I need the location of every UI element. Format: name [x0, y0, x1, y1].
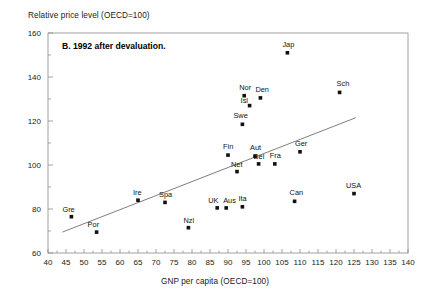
data-point-label: Den: [255, 85, 269, 94]
x-tick-label: 40: [44, 258, 53, 267]
x-tick-label: 140: [401, 258, 415, 267]
data-point-marker: [338, 91, 342, 95]
data-point-marker: [95, 230, 99, 234]
x-tick-label: 45: [62, 258, 71, 267]
data-point-label: Fin: [223, 142, 233, 151]
data-point-label: Ita: [238, 194, 247, 203]
y-axis-ticks: 6080100120140160: [28, 29, 53, 258]
x-tick-label: 100: [257, 258, 271, 267]
x-tick-label: 115: [312, 258, 325, 267]
x-axis-label: GNP per capita (OECD=100): [0, 277, 430, 286]
data-point-label: Fra: [270, 151, 282, 160]
x-tick-label: 80: [188, 258, 197, 267]
data-point-marker: [215, 206, 219, 210]
x-tick-label: 120: [329, 258, 343, 267]
data-point-label: Por: [88, 220, 100, 229]
data-point-label: USA: [346, 181, 361, 190]
data-point-marker: [273, 162, 277, 166]
x-tick-label: 65: [134, 258, 143, 267]
data-point-label: Ire: [133, 188, 142, 197]
x-tick-label: 95: [242, 258, 251, 267]
data-point-marker: [241, 205, 245, 209]
y-tick-label: 60: [32, 249, 41, 258]
data-point-label: Aus: [223, 196, 236, 205]
data-points-group: GrePorIreSpaNzlUKAusItaFinNetAutBelFraGe…: [62, 40, 361, 234]
data-point-marker: [298, 150, 302, 154]
data-point-marker: [241, 123, 245, 127]
data-point-label: Gre: [62, 205, 74, 214]
data-point-label: Can: [290, 188, 304, 197]
data-point-marker: [235, 170, 239, 174]
chart-container: Relative price level (OECD=100) 40455055…: [0, 0, 430, 294]
y-tick-label: 100: [28, 161, 42, 170]
x-tick-label: 130: [365, 258, 379, 267]
x-tick-label: 90: [224, 258, 233, 267]
data-point-marker: [224, 206, 228, 210]
data-point-label: Net: [231, 160, 243, 169]
x-axis-ticks: 4045505560657075808590951001051101151201…: [44, 249, 416, 267]
y-tick-label: 120: [28, 117, 42, 126]
data-point-marker: [187, 226, 191, 230]
panel-title: B. 1992 after devaluation.: [62, 41, 166, 51]
trend-line: [62, 118, 355, 232]
data-point-marker: [286, 51, 290, 55]
x-tick-label: 70: [152, 258, 161, 267]
data-point-marker: [226, 153, 230, 157]
data-point-label: Bel: [254, 152, 265, 161]
x-tick-label: 85: [206, 258, 215, 267]
x-tick-label: 105: [275, 258, 289, 267]
data-point-marker: [136, 198, 140, 202]
y-tick-label: 160: [28, 29, 42, 38]
data-point-marker: [163, 201, 167, 205]
x-tick-label: 60: [116, 258, 125, 267]
y-tick-label: 140: [28, 73, 42, 82]
x-tick-label: 55: [98, 258, 107, 267]
data-point-label: Nor: [239, 83, 251, 92]
data-point-marker: [70, 215, 74, 219]
trend-line-group: [62, 118, 355, 232]
data-point-label: Sch: [337, 79, 350, 88]
data-point-label: Spa: [159, 190, 173, 199]
x-tick-label: 125: [347, 258, 361, 267]
data-point-marker: [248, 104, 252, 108]
data-point-marker: [259, 96, 263, 100]
data-point-marker: [242, 94, 246, 98]
data-point-marker: [293, 200, 297, 204]
x-tick-label: 75: [170, 258, 179, 267]
x-tick-label: 135: [383, 258, 397, 267]
data-point-marker: [352, 192, 356, 196]
y-tick-label: 80: [32, 205, 41, 214]
data-point-label: Nzl: [183, 216, 194, 225]
x-tick-label: 110: [294, 258, 307, 267]
data-point-label: Swe: [233, 111, 247, 120]
x-tick-label: 50: [80, 258, 89, 267]
data-point-label: Ger: [295, 139, 308, 148]
data-point-label: UK: [208, 196, 218, 205]
data-point-label: Jap: [282, 40, 294, 49]
data-point-label: Aut: [250, 143, 261, 152]
data-point-marker: [257, 162, 261, 166]
